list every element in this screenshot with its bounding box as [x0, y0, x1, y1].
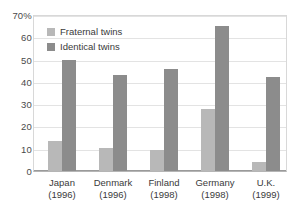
bar-group	[252, 15, 280, 171]
y-axis-tick-label: 60	[0, 32, 32, 43]
x-label-country: Japan	[49, 177, 75, 188]
y-axis-tick-label: 0	[0, 166, 32, 177]
chart-legend: Fraternal twins Identical twins	[47, 24, 122, 54]
x-axis-tick-label: U.K.(1999)	[228, 177, 294, 201]
y-axis-tick-label: 50	[0, 54, 32, 65]
y-axis-tick-label: 70%	[0, 10, 32, 21]
legend-label-identical: Identical twins	[60, 41, 120, 52]
legend-swatch-identical-icon	[47, 43, 55, 51]
legend-swatch-fraternal-icon	[47, 28, 55, 36]
legend-item-identical: Identical twins	[47, 39, 122, 54]
bar-identical	[113, 75, 127, 171]
x-label-country: Finland	[148, 177, 179, 188]
bar-identical	[164, 69, 178, 172]
bar-fraternal	[48, 141, 62, 171]
x-label-country: U.K.	[257, 177, 275, 188]
bar-identical	[215, 26, 229, 171]
bar-fraternal	[201, 109, 215, 171]
y-axis-tick-label: 20	[0, 121, 32, 132]
twin-birth-rate-bar-chart: 010203040506070% Japan(1996)Denmark(1996…	[0, 0, 294, 215]
bar-identical	[62, 60, 76, 171]
bar-identical	[266, 77, 280, 171]
bar-group	[201, 15, 229, 171]
x-label-year: (1999)	[228, 189, 294, 201]
legend-item-fraternal: Fraternal twins	[47, 24, 122, 39]
bar-group	[150, 15, 178, 171]
y-axis-tick-label: 30	[0, 99, 32, 110]
bar-fraternal	[99, 148, 113, 171]
legend-label-fraternal: Fraternal twins	[60, 26, 122, 37]
y-axis-tick-label: 40	[0, 76, 32, 87]
bar-fraternal	[150, 150, 164, 171]
y-axis-tick-label: 10	[0, 143, 32, 154]
bar-fraternal	[252, 162, 266, 171]
